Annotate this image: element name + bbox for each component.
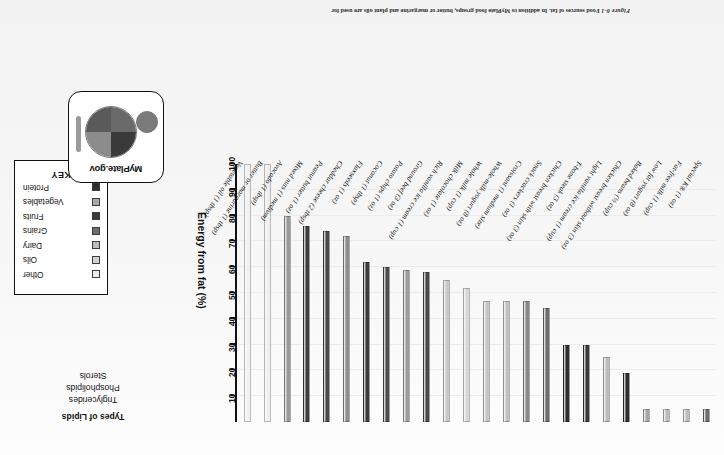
legend-swatch — [92, 256, 100, 264]
chart-axis-title: Energy from fat (%) — [196, 212, 208, 309]
bar-slot — [696, 164, 716, 422]
bar — [443, 280, 450, 422]
myplate-wordmark: MyPlate.gov — [69, 164, 163, 175]
legend-item: Dairy — [21, 239, 100, 252]
axis-tick-label: 20 — [227, 368, 237, 377]
bar — [523, 301, 530, 422]
bar — [323, 231, 330, 422]
lipid-type-item: Triglycerides — [28, 394, 158, 406]
legend-item: Other — [21, 268, 100, 281]
bar — [363, 262, 370, 422]
legend-swatch — [92, 227, 100, 235]
bar — [423, 272, 430, 422]
axis-tick-label: 70 — [227, 239, 237, 248]
bar — [284, 216, 291, 422]
axis-tick-label: 10 — [227, 394, 237, 403]
bar-slot — [676, 164, 696, 422]
myplate-section-grains — [86, 132, 111, 157]
legend-item: Fruits — [21, 210, 100, 223]
lipid-type-item: Sterols — [28, 370, 158, 382]
bar — [463, 288, 470, 422]
legend-swatch — [92, 271, 100, 279]
bar — [703, 409, 710, 422]
legend-swatch — [92, 184, 100, 192]
myplate-utensil-icon — [76, 116, 81, 152]
figure-page: Figure 6-1 Food sources of fat. In addit… — [0, 0, 724, 455]
types-of-lipids-title: Types of Lipids — [28, 412, 158, 422]
legend-item: Grains — [21, 225, 100, 238]
bar — [343, 236, 350, 422]
chart-category-labels: Special K® (1 oz)Fat-free milk (1 cup)Lo… — [237, 14, 716, 164]
myplate-logo: MyPlate.gov — [68, 91, 164, 183]
bar — [643, 409, 650, 422]
legend-swatch — [92, 198, 100, 206]
legend-swatch — [92, 213, 100, 221]
myplate-domain: .gov — [90, 164, 108, 175]
bar — [623, 373, 630, 422]
myplate-section-protein — [86, 107, 111, 132]
bar — [503, 301, 510, 422]
bar — [683, 409, 690, 422]
bar — [483, 301, 490, 422]
bar — [303, 226, 310, 422]
types-of-lipids-panel: Types of Lipids TriglyceridesPhospholipi… — [28, 370, 158, 422]
lipid-type-item: Phospholipids — [28, 382, 158, 394]
bar — [543, 308, 550, 422]
legend-label: Other — [21, 270, 92, 279]
bar — [563, 345, 570, 422]
legend-item: Vegetables — [21, 196, 100, 209]
bar — [403, 270, 410, 422]
myplate-section-vegetables — [111, 107, 136, 132]
myplate-plate-graphic — [85, 106, 137, 158]
legend-label: Oils — [21, 256, 92, 265]
axis-tick-label: 50 — [227, 291, 237, 300]
legend-label: Fruits — [21, 212, 92, 221]
bar — [583, 345, 590, 422]
axis-tick-label: 60 — [227, 265, 237, 274]
legend-swatch — [92, 242, 100, 250]
legend-label: Grains — [21, 227, 92, 236]
axis-tick-label: 30 — [227, 342, 237, 351]
bar — [383, 267, 390, 422]
myplate-name: MyPlate — [108, 164, 142, 175]
legend-item: Oils — [21, 254, 100, 267]
bar — [663, 409, 670, 422]
types-of-lipids-items: TriglyceridesPhospholipidsSterols — [28, 370, 158, 406]
legend-label: Vegetables — [21, 198, 92, 207]
myplate-section-fruits — [111, 132, 136, 157]
bar — [603, 358, 610, 423]
myplate-dairy-cup-icon — [136, 111, 158, 133]
axis-tick-label: 40 — [227, 316, 237, 325]
legend-label: Dairy — [21, 241, 92, 250]
legend-label: Protein — [21, 183, 92, 192]
